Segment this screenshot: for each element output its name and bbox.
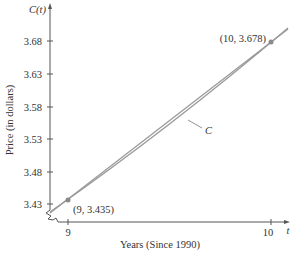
x-axis-arrow-icon <box>284 220 290 224</box>
point-label: (9, 3.435) <box>73 204 115 216</box>
curve-label-leader <box>188 120 202 128</box>
y-tick-label: 3.53 <box>24 134 42 145</box>
curve-c <box>50 28 288 212</box>
y-tick-label: 3.48 <box>24 167 42 178</box>
y-axis-title: Price (in dollars) <box>4 84 16 155</box>
x-tick-label: 9 <box>65 227 70 238</box>
point-label: (10, 3.678) <box>220 33 267 45</box>
secant-line <box>50 29 288 213</box>
x-tick-label: 10 <box>263 227 274 238</box>
y-tick-label: 3.68 <box>24 36 42 47</box>
y-tick-label: 3.58 <box>24 102 42 113</box>
y-tick-label: 3.63 <box>24 69 42 80</box>
chart: 3.68 3.63 3.58 3.53 3.48 3.43 9 10 C(t) … <box>0 0 296 254</box>
curve-label: C <box>205 125 213 136</box>
data-point <box>269 40 274 45</box>
y-axis-variable: C(t) <box>29 4 46 16</box>
data-point <box>66 198 71 203</box>
x-axis-title: Years (Since 1990) <box>120 239 201 251</box>
y-tick-label: 3.43 <box>24 199 42 210</box>
y-axis-arrow-icon <box>48 3 52 9</box>
x-axis-variable: t <box>287 225 291 236</box>
